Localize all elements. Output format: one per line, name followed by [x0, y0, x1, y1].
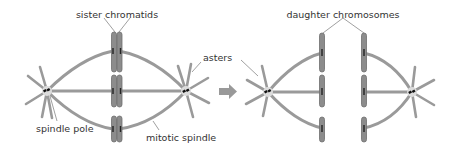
leader-asters-right [241, 60, 258, 76]
label-daughter-chromosomes: daughter chromosomes [286, 9, 399, 20]
metaphase-panel: sister chromatids spindle pole mitotic s… [26, 9, 232, 143]
leader-mitotic-spindle [153, 121, 159, 130]
leader-daughter-chromosomes-a [323, 18, 343, 33]
label-sister-chromatids: sister chromatids [76, 9, 158, 20]
spindle-pole-left-1 [42, 86, 52, 96]
mitotic-spindle-2 [268, 53, 412, 128]
leader-daughter-chromosomes-b [343, 18, 364, 33]
mitosis-diagram: sister chromatids spindle pole mitotic s… [0, 0, 462, 154]
transition-arrow-icon [219, 84, 237, 99]
label-spindle-pole: spindle pole [36, 123, 94, 134]
sister-chromatids-middle [112, 75, 123, 107]
leader-asters [192, 62, 201, 72]
spindle-pole-right-1 [181, 86, 191, 96]
leader-sister-chromatids-a [104, 18, 115, 32]
sister-chromatids-top [112, 32, 123, 72]
spindle-pole-right-2 [407, 87, 417, 97]
anaphase-panel: daughter chromosomes [241, 9, 434, 142]
label-mitotic-spindle: mitotic spindle [146, 132, 216, 143]
spindle-pole-left-2 [263, 87, 273, 97]
daughter-chromosomes-right [362, 33, 367, 142]
leader-sister-chromatids-b [119, 18, 130, 32]
sister-chromatids-bottom [112, 116, 123, 142]
label-asters: asters [203, 52, 232, 63]
daughter-chromosomes-left [320, 33, 325, 142]
